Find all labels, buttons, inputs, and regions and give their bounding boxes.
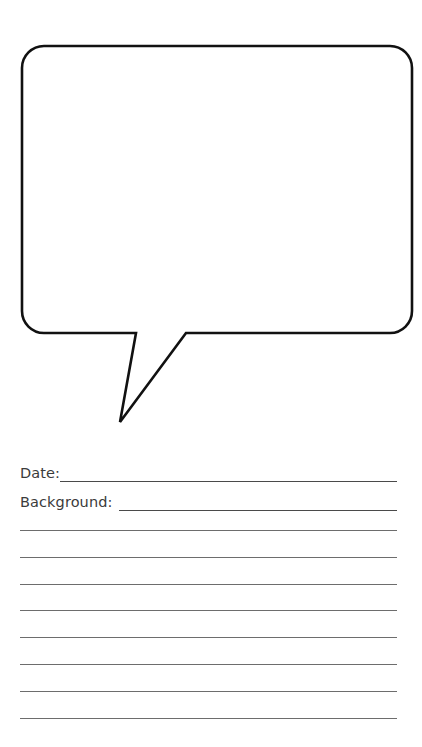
blank-line[interactable] [20, 718, 397, 719]
background-label: Background: [20, 495, 119, 512]
speech-bubble-container [0, 0, 422, 440]
date-field-row: Date: [20, 460, 397, 482]
speech-bubble-graphic [0, 0, 422, 440]
worksheet-page: Date: Background: [0, 0, 422, 747]
blank-line[interactable] [20, 557, 397, 558]
blank-line[interactable] [20, 610, 397, 611]
blank-line[interactable] [20, 637, 397, 638]
date-label: Date: [20, 466, 60, 483]
blank-line[interactable] [20, 584, 397, 585]
writing-area: Date: Background: [0, 440, 422, 747]
background-input-rule[interactable] [119, 510, 398, 511]
blank-line[interactable] [20, 530, 397, 531]
date-input-rule[interactable] [60, 481, 397, 482]
blank-line[interactable] [20, 691, 397, 692]
blank-line[interactable] [20, 664, 397, 665]
speech-bubble-writing-space[interactable] [36, 60, 398, 318]
speech-bubble-text [36, 60, 398, 318]
background-field-row: Background: [20, 489, 397, 511]
